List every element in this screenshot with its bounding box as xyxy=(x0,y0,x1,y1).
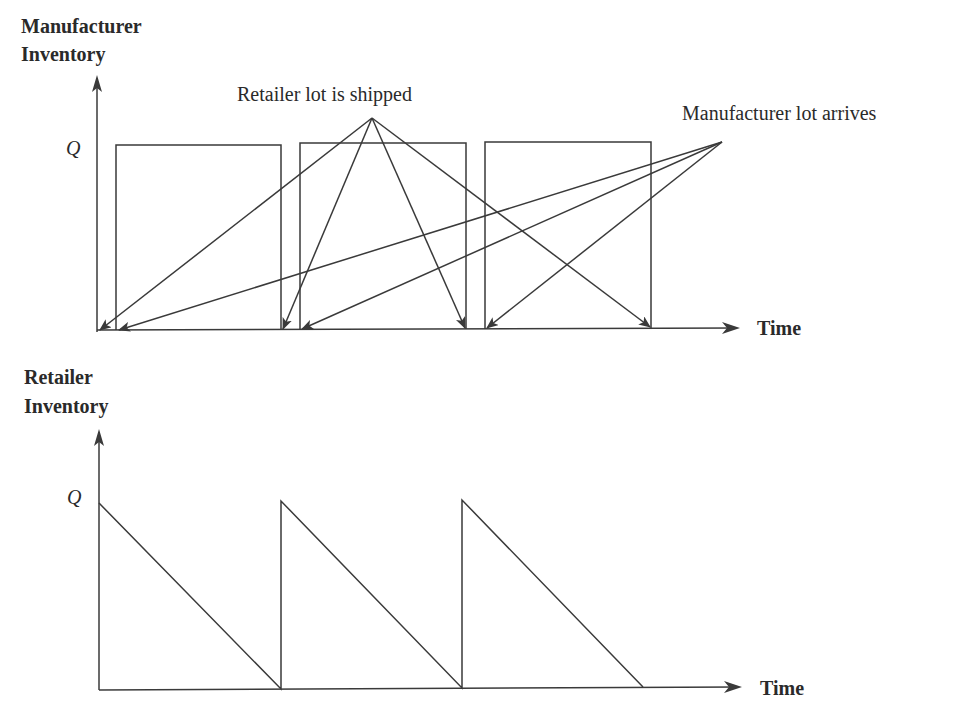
bottom-x-axis xyxy=(99,687,738,690)
manufacturer-pulse-2 xyxy=(300,143,466,330)
retailer-sawtooth-line xyxy=(99,500,643,689)
retailer-shipped-arrows xyxy=(100,118,650,330)
manufacturer-arrives-arrows xyxy=(119,142,722,330)
shipped-arrow-t2 xyxy=(372,118,465,328)
manufacturer-inventory-pulses xyxy=(116,142,651,330)
inventory-diagram xyxy=(0,0,964,714)
shipped-arrow-t3 xyxy=(372,118,650,327)
bottom-axes xyxy=(94,429,742,693)
shipped-arrow-t1 xyxy=(283,118,372,329)
retailer-inventory-sawtooth xyxy=(99,500,643,689)
manufacturer-pulse-1 xyxy=(116,145,281,330)
arrives-arrow-2 xyxy=(302,142,722,329)
top-x-axis xyxy=(97,328,736,330)
shipped-arrow-t0 xyxy=(100,118,372,330)
arrives-arrow-1 xyxy=(119,142,722,330)
manufacturer-pulse-3 xyxy=(485,142,651,329)
arrives-arrow-3 xyxy=(487,142,722,328)
